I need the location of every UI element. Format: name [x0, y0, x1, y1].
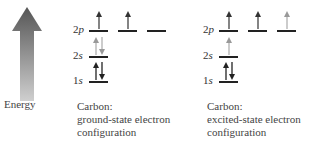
orbital-2p-b — [248, 30, 267, 32]
orbital-2p-c — [277, 30, 296, 32]
spin-up-arrow-icon — [225, 37, 233, 55]
spin-down-arrow-icon — [98, 37, 106, 55]
spin-up-arrow-icon — [225, 11, 233, 29]
orbital-2s — [89, 56, 108, 58]
spin-up-arrow-icon — [254, 11, 262, 29]
label-2s: 2s — [203, 49, 213, 61]
orbital-2p-c — [147, 30, 166, 32]
label-2p: 2p — [203, 23, 214, 35]
spin-up-arrow-icon — [124, 11, 132, 29]
spin-down-arrow-icon — [98, 62, 106, 80]
orbital-2p-a — [219, 30, 238, 32]
spin-up-arrow-icon — [95, 11, 103, 29]
excited-state-caption: Carbon: excited-state electron configura… — [207, 100, 301, 139]
label-1s: 1s — [73, 74, 83, 86]
ground-state-caption: Carbon: ground-state electron configurat… — [77, 100, 170, 139]
energy-axis-label: Energy — [4, 98, 36, 110]
label-2s: 2s — [73, 49, 83, 61]
label-1s: 1s — [203, 74, 213, 86]
spin-up-arrow-icon — [283, 11, 291, 29]
label-2p: 2p — [73, 23, 84, 35]
orbital-2s — [219, 56, 238, 58]
energy-arrow-icon — [12, 7, 42, 101]
orbital-1s — [89, 81, 108, 83]
orbital-2p-b — [118, 30, 137, 32]
orbital-2p-a — [89, 30, 108, 32]
spin-down-arrow-icon — [228, 62, 236, 80]
orbital-1s — [219, 81, 238, 83]
